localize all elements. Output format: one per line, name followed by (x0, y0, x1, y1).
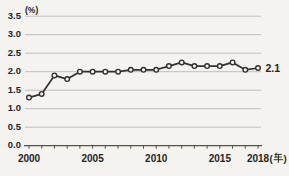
data-point (192, 64, 197, 69)
x-tick-label: 2018 (247, 153, 270, 164)
y-tick-label: 2.5 (8, 47, 22, 58)
data-point (230, 60, 235, 65)
end-value-label: 2.1 (266, 62, 281, 74)
chart-container: 0.00.51.01.52.02.53.03.5(%)2000200520102… (0, 0, 289, 176)
data-point (141, 68, 146, 73)
y-tick-label: 1.5 (8, 84, 22, 95)
data-point (256, 66, 261, 71)
x-tick-label: 2010 (145, 153, 168, 164)
data-point (103, 69, 108, 74)
x-axis-unit-label: () (270, 153, 287, 164)
y-tick-label: 0.0 (8, 139, 21, 150)
data-point (90, 69, 95, 74)
data-point (65, 77, 70, 82)
data-point (78, 69, 83, 74)
paren: ( (270, 153, 274, 164)
y-tick-label: 2.0 (8, 65, 21, 76)
y-tick-label: 3.0 (8, 28, 21, 39)
x-tick-label: 2005 (81, 153, 104, 164)
data-point (218, 64, 223, 69)
y-tick-label: 1.0 (8, 102, 21, 113)
data-point (27, 95, 32, 100)
data-point (116, 69, 121, 74)
data-point (52, 73, 57, 78)
data-point (39, 92, 44, 97)
x-tick-label: 2015 (209, 153, 232, 164)
y-tick-label: 3.5 (8, 10, 22, 21)
y-tick-label: 0.5 (8, 121, 22, 132)
data-point (243, 68, 248, 73)
data-point (205, 64, 210, 69)
paren: ) (284, 153, 287, 164)
year-kanji-icon (274, 153, 283, 163)
data-point (167, 64, 172, 69)
line-chart: 0.00.51.01.52.02.53.03.5(%)2000200520102… (0, 0, 289, 176)
data-point (129, 68, 134, 73)
data-point (179, 60, 184, 65)
y-unit-label: (%) (25, 5, 38, 15)
x-tick-label: 2000 (18, 153, 41, 164)
data-point (154, 68, 159, 73)
